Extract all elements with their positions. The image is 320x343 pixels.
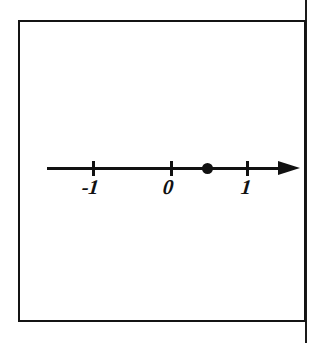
tick-mark-zero — [170, 161, 173, 176]
tick-label-one: 1 — [240, 177, 252, 198]
tick-mark-one — [246, 161, 249, 176]
figure-frame: -1 0 1 — [18, 20, 306, 322]
tick-label-minus-one: -1 — [81, 177, 100, 198]
plotted-point — [202, 163, 213, 174]
figure-page: -1 0 1 — [0, 0, 320, 343]
tick-mark-minus-one — [92, 161, 95, 176]
tick-label-zero: 0 — [162, 177, 174, 198]
number-line-diagram: -1 0 1 — [20, 22, 304, 320]
number-line-axis — [47, 167, 285, 170]
arrow-right-icon — [278, 161, 300, 175]
